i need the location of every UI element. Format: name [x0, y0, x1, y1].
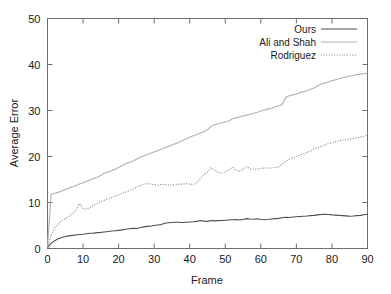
legend-label-ours: Ours [294, 24, 316, 35]
x-tick-label: 0 [44, 253, 50, 265]
y-tick-label: 0 [34, 243, 40, 255]
y-axis-title: Average Error [8, 99, 20, 168]
x-tick-label: 10 [77, 253, 89, 265]
average-error-line-chart: 01020304050 0102030405060708090 Average … [0, 0, 391, 294]
y-tick-label: 30 [28, 105, 40, 117]
x-tick-label: 80 [326, 253, 338, 265]
y-tick-label: 40 [28, 59, 40, 71]
x-tick-label: 60 [255, 253, 267, 265]
x-tick-label: 70 [290, 253, 302, 265]
legend-label-ali-and-shah: Ali and Shah [259, 37, 316, 48]
x-axis-title: Frame [191, 274, 223, 286]
x-tick-label: 20 [112, 253, 124, 265]
x-tick-label: 90 [361, 253, 373, 265]
y-tick-label: 20 [28, 151, 40, 163]
y-tick-label: 10 [28, 197, 40, 209]
y-tick-label: 50 [28, 13, 40, 25]
chart-background [0, 0, 391, 294]
legend-label-rodriguez: Rodriguez [270, 50, 316, 61]
x-tick-label: 40 [184, 253, 196, 265]
x-tick-label: 50 [219, 253, 231, 265]
x-tick-label: 30 [148, 253, 160, 265]
chart-figure: 01020304050 0102030405060708090 Average … [0, 0, 391, 294]
